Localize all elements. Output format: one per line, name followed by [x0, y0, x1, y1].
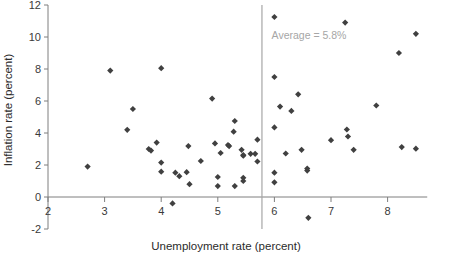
y-tick-label: 10	[29, 31, 41, 43]
average-line-label: Average = 5.8%	[272, 29, 347, 41]
x-tick-label: 8	[385, 205, 391, 217]
scatter-chart: -2024681012 2345678 Average = 5.8% Unemp…	[0, 0, 451, 259]
x-tick-label: 2	[45, 205, 51, 217]
x-tick-label: 4	[158, 205, 164, 217]
x-tick-label: 6	[271, 205, 277, 217]
x-tick-label: 5	[215, 205, 221, 217]
chart-canvas: -2024681012 2345678 Average = 5.8% Unemp…	[0, 0, 451, 259]
y-tick-label: 12	[29, 0, 41, 11]
y-tick-label: 6	[35, 95, 41, 107]
y-tick-label: 0	[35, 191, 41, 203]
chart-background	[0, 0, 451, 259]
x-axis-title: Unemployment rate (percent)	[151, 240, 301, 252]
y-tick-label: -2	[31, 223, 41, 235]
y-tick-label: 4	[35, 127, 41, 139]
chart-annotations: Average = 5.8%	[272, 29, 347, 41]
y-axis-title: Inflation rate (percent)	[2, 54, 14, 167]
y-tick-label: 2	[35, 159, 41, 171]
x-tick-label: 7	[328, 205, 334, 217]
x-tick-label: 3	[102, 205, 108, 217]
y-tick-label: 8	[35, 63, 41, 75]
